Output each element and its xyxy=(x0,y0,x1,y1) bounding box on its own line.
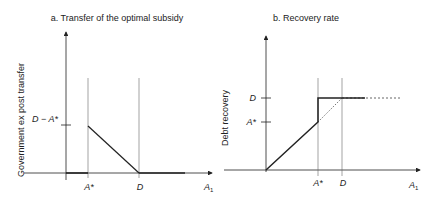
panel-a-ytick-label: D − A* xyxy=(32,114,58,124)
panel-b-xtick-d: D xyxy=(340,178,347,188)
panel-a-title: a. Transfer of the optimal subsidy xyxy=(51,13,184,23)
panel-b-ytick-label-d: D xyxy=(250,93,257,103)
panel-b-xlabel: A1 xyxy=(408,180,419,191)
panel-a-xtick-astar: A* xyxy=(83,182,94,192)
panel-a-xlabel: A1 xyxy=(203,182,214,193)
diagram-canvas: a. Transfer of the optimal subsidy Gover… xyxy=(0,0,433,197)
panel-b-title: b. Recovery rate xyxy=(273,13,339,23)
panel-b-xtick-astar: A* xyxy=(312,178,323,188)
panel-b-recovery-curve xyxy=(266,98,365,170)
panel-b-dotted-diagonal xyxy=(318,98,342,122)
panel-a: a. Transfer of the optimal subsidy Gover… xyxy=(16,13,214,193)
panel-a-transfer-line xyxy=(88,126,139,173)
panel-b-ytick-label-astar: A* xyxy=(245,117,256,127)
panel-b: b. Recovery rate Debt recovery D A* A* D… xyxy=(220,13,420,191)
panel-a-xtick-d: D xyxy=(137,182,144,192)
panel-b-ylabel: Debt recovery xyxy=(220,89,230,146)
panel-a-ylabel: Government ex post transfer xyxy=(16,63,26,177)
